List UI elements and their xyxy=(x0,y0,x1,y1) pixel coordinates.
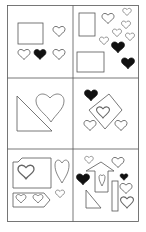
panel-6 xyxy=(77,156,134,211)
heart-filled-icon xyxy=(85,90,98,101)
heart-outline-icon xyxy=(53,26,65,36)
heart-outline-large-icon xyxy=(36,94,64,122)
rectangle xyxy=(79,13,95,36)
heart-outline-icon xyxy=(123,8,132,15)
heart-outline-icon xyxy=(112,157,124,167)
heart-filled-icon xyxy=(120,174,128,181)
panel-2 xyxy=(77,8,135,72)
heart-outline-icon xyxy=(85,156,94,163)
rectangle xyxy=(77,52,104,72)
heart-outline-icon xyxy=(53,49,65,59)
heart-outline-icon xyxy=(115,120,127,130)
heart-outline-icon xyxy=(100,37,109,45)
heart-outline-icon xyxy=(56,190,65,198)
heart-outline-icon xyxy=(120,183,132,193)
panel-5 xyxy=(13,158,69,207)
right-triangle xyxy=(86,190,101,208)
heart-outline-icon xyxy=(122,21,131,29)
heart-outline-tall-icon xyxy=(55,160,69,183)
rectangle xyxy=(18,23,43,44)
heart-outline-icon xyxy=(102,13,114,23)
panel-4 xyxy=(84,90,127,131)
heart-outline-icon xyxy=(126,33,135,41)
heart-outline-icon xyxy=(121,197,134,208)
heart-filled-icon xyxy=(112,42,125,53)
heart-outline-icon xyxy=(84,120,96,130)
heart-filled-icon xyxy=(122,58,135,69)
panel-1 xyxy=(18,23,65,60)
heart-outline-icon xyxy=(18,49,30,59)
rectangle xyxy=(112,181,118,211)
panel-3 xyxy=(17,94,64,131)
heart-outline-icon xyxy=(113,29,122,37)
puzzle-figure xyxy=(0,0,146,232)
heart-filled-icon xyxy=(77,174,90,185)
heart-filled-icon xyxy=(34,49,46,59)
